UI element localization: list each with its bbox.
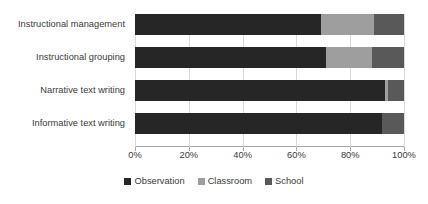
bar-row[interactable] (135, 80, 404, 101)
legend-swatch-icon (124, 178, 131, 185)
gridline (404, 14, 405, 147)
x-axis-tick-label: 20% (179, 150, 198, 160)
category-axis-labels: Instructional management Instructional g… (0, 14, 131, 147)
legend-item[interactable]: School (265, 176, 303, 186)
bar-segment[interactable] (382, 113, 404, 134)
legend-item[interactable]: Observation (124, 176, 184, 186)
category-label: Instructional management (0, 19, 125, 30)
bar-segment[interactable] (135, 113, 382, 134)
legend-label: Observation (134, 176, 184, 186)
x-axis-tick-labels: 0%20%40%60%80%100% (135, 150, 404, 164)
bar-segment[interactable] (372, 47, 404, 68)
x-axis-tick-label: 100% (392, 150, 416, 160)
legend-label: Classroom (208, 176, 252, 186)
chart-legend: ObservationClassroomSchool (0, 176, 428, 186)
category-label: Informative text writing (0, 118, 125, 129)
bar-row[interactable] (135, 113, 404, 134)
plot-area (135, 14, 404, 147)
x-axis-tick-label: 0% (128, 150, 141, 160)
bar-segment[interactable] (135, 14, 321, 35)
legend-swatch-icon (198, 178, 205, 185)
x-axis-tick-label: 80% (341, 150, 360, 160)
bar-row[interactable] (135, 14, 404, 35)
legend-label: School (275, 176, 303, 186)
category-label: Instructional grouping (0, 52, 125, 63)
bar-segment[interactable] (321, 14, 375, 35)
stacked-bar-chart: Instructional management Instructional g… (0, 0, 428, 204)
bar-segment[interactable] (135, 80, 385, 101)
x-axis-tick-label: 40% (233, 150, 252, 160)
bar-segment[interactable] (326, 47, 372, 68)
x-axis-tick-label: 60% (287, 150, 306, 160)
bar-segment[interactable] (374, 14, 404, 35)
legend-swatch-icon (265, 178, 272, 185)
bar-row[interactable] (135, 47, 404, 68)
x-axis-line (135, 146, 405, 147)
bar-segment[interactable] (135, 47, 326, 68)
category-label: Narrative text writing (0, 85, 125, 96)
bar-segment[interactable] (388, 80, 404, 101)
legend-item[interactable]: Classroom (198, 176, 252, 186)
